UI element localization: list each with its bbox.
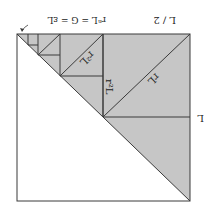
side-label: L: [197, 113, 204, 124]
limit-label: rⁿL = G = εL: [47, 15, 106, 25]
half-label: L / 2: [153, 15, 176, 26]
diagram-canvas: L L / 2 rL r²L r²L rⁿL = G = εL: [0, 0, 216, 217]
geometric-series-diagram: L L / 2 rL r²L r²L rⁿL = G = εL: [0, 0, 216, 217]
diagram-lines: [17, 34, 190, 201]
r2-label-vertical: r²L: [104, 79, 115, 95]
